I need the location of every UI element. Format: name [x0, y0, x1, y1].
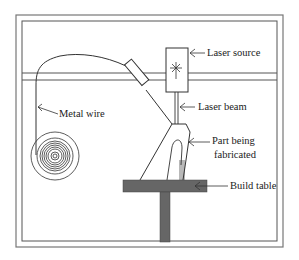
wire-spool — [31, 132, 79, 180]
label-part-line1: Part being — [212, 135, 255, 147]
label-build-table: Build table — [230, 180, 276, 192]
label-laser-beam: Laser beam — [198, 101, 247, 113]
build-table-leg — [160, 192, 170, 242]
laser-source-box — [166, 48, 188, 92]
label-metal-wire: Metal wire — [59, 108, 105, 120]
wire-feed-nozzle — [125, 59, 149, 85]
wire-to-part — [146, 90, 172, 124]
label-part-line2: fabricated — [214, 149, 256, 161]
diagram-canvas — [0, 0, 299, 260]
label-laser-source: Laser source — [207, 47, 260, 59]
metal-wire — [36, 54, 126, 155]
part-outer — [140, 124, 190, 180]
